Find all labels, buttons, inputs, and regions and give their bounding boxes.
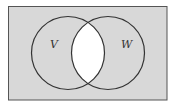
set-w-label: W bbox=[121, 38, 134, 51]
set-v-label: V bbox=[50, 38, 59, 51]
venn-diagram: V W bbox=[0, 0, 179, 106]
